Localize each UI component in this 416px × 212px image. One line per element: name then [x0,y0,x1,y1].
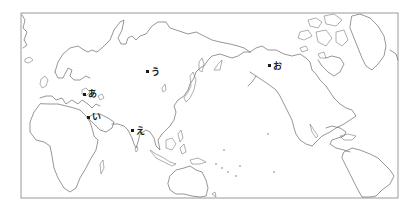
marker-a: あ [83,89,97,99]
marker-o: お [268,61,282,71]
sulawesi [180,144,186,154]
philippines [178,130,183,142]
greenland [350,14,386,70]
lake-baikal [162,84,166,92]
coastlines [22,14,398,197]
marker-e-dot [131,129,134,132]
iceland [25,57,33,63]
marker-u-dot [146,70,149,73]
sakhalin [199,58,204,72]
south-america [342,148,394,197]
marker-i-label: い [92,112,101,122]
marker-a-dot [83,93,86,96]
caribbean-islands [340,134,356,140]
new-guinea [190,158,206,164]
marker-o-dot [268,64,271,67]
australia [168,166,208,197]
borneo [166,138,176,150]
map-frame [21,13,398,198]
map-canvas: あ い う え お [0,0,416,212]
new-zealand [212,192,216,197]
sumatra-java [150,150,176,166]
marker-i-dot [87,116,90,119]
marker-a-label: あ [88,89,97,99]
madagascar [100,160,104,174]
marker-e: え [131,126,145,136]
marker-e-label: え [136,126,145,136]
great-britain [40,76,48,88]
marker-u-label: う [151,67,160,77]
marker-o-label: お [273,61,282,71]
world-map: あ い う え お [0,0,416,212]
caspian [98,94,104,100]
baja-california [310,124,318,138]
marker-u: う [146,67,160,77]
kamchatka [214,60,222,70]
